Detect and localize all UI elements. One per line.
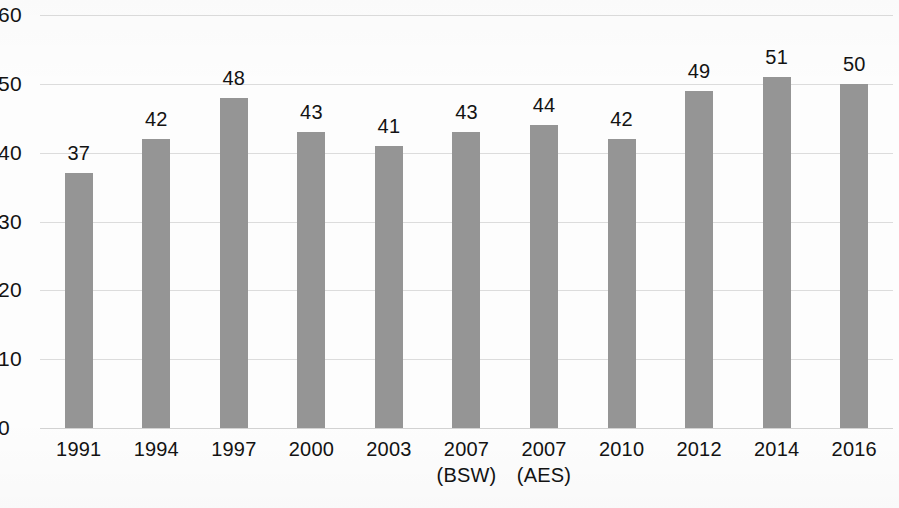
x-tick-label-line1: 1997: [195, 436, 273, 462]
bar-value-label: 43: [300, 102, 323, 122]
x-tick-label: 1997: [195, 436, 273, 462]
bar: [685, 91, 713, 428]
x-tick-label: 2007(AES): [505, 436, 583, 488]
y-axis: 0102030405060: [0, 15, 34, 428]
bar-group: 49: [660, 15, 738, 428]
y-tick-label: 60: [0, 4, 34, 25]
bar: [65, 173, 93, 428]
x-tick-label: 2010: [583, 436, 661, 462]
x-tick-label-line1: 2007: [428, 436, 506, 462]
bar-group: 43: [428, 15, 506, 428]
y-tick-label: 50: [0, 73, 34, 94]
bar: [452, 132, 480, 428]
bar: [375, 146, 403, 428]
y-tick-label: 20: [0, 279, 34, 300]
x-tick-label: 1994: [118, 436, 196, 462]
y-tick-label: 40: [0, 142, 34, 163]
bar-value-label: 48: [223, 68, 246, 88]
x-tick-label-line1: 2016: [815, 436, 893, 462]
bar-value-label: 37: [67, 143, 90, 163]
bar-group: 41: [350, 15, 428, 428]
x-tick-label: 2000: [273, 436, 351, 462]
bar-value-label: 49: [688, 61, 711, 81]
x-tick-label-line1: 2012: [660, 436, 738, 462]
x-tick-label-line1: 1994: [118, 436, 196, 462]
x-tick-label: 2016: [815, 436, 893, 462]
x-tick-label: 2012: [660, 436, 738, 462]
y-tick-label: 10: [0, 348, 34, 369]
bar: [530, 125, 558, 428]
x-tick-label-line1: 2014: [738, 436, 816, 462]
x-tick-label-line1: 2007: [505, 436, 583, 462]
x-axis: 199119941997200020032007(BSW)2007(AES)20…: [40, 436, 893, 504]
x-tick-label-line1: 1991: [40, 436, 118, 462]
x-tick-label-line1: 2003: [350, 436, 428, 462]
bar: [142, 139, 170, 428]
bar-value-label: 42: [145, 109, 168, 129]
bar-group: 44: [505, 15, 583, 428]
bar-group: 48: [195, 15, 273, 428]
bar-value-label: 41: [378, 116, 401, 136]
bar-group: 51: [738, 15, 816, 428]
x-tick-label-line2: (BSW): [428, 462, 506, 488]
bar-value-label: 50: [843, 54, 866, 74]
bar-value-label: 51: [765, 47, 788, 67]
bar-chart-figure: 0102030405060 3742484341434442495150 199…: [0, 0, 899, 508]
plot-area: 3742484341434442495150: [40, 15, 893, 428]
bar: [220, 98, 248, 428]
x-tick-label: 2003: [350, 436, 428, 462]
gridline-0: [40, 428, 893, 429]
bar-value-label: 42: [610, 109, 633, 129]
x-tick-label: 2007(BSW): [428, 436, 506, 488]
bar-group: 42: [583, 15, 661, 428]
bar-value-label: 43: [455, 102, 478, 122]
x-tick-label: 2014: [738, 436, 816, 462]
bar: [840, 84, 868, 428]
bar-group: 50: [815, 15, 893, 428]
x-tick-label: 1991: [40, 436, 118, 462]
bar: [763, 77, 791, 428]
y-tick-label: 30: [0, 211, 34, 232]
bar-value-label: 44: [533, 95, 556, 115]
bar-group: 42: [118, 15, 196, 428]
bar-group: 43: [273, 15, 351, 428]
x-tick-label-line1: 2010: [583, 436, 661, 462]
bar-group: 37: [40, 15, 118, 428]
bar: [608, 139, 636, 428]
bar: [297, 132, 325, 428]
y-tick-label: 0: [0, 417, 34, 438]
x-tick-label-line1: 2000: [273, 436, 351, 462]
x-tick-label-line2: (AES): [505, 462, 583, 488]
